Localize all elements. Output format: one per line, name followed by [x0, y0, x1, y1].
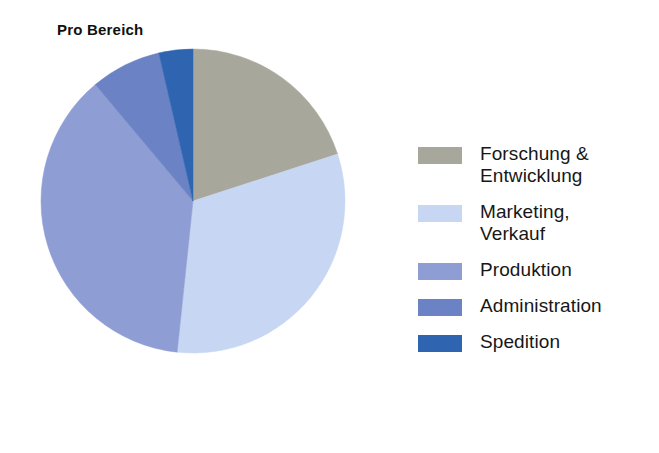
legend-color-swatch	[418, 299, 462, 316]
legend-color-swatch	[418, 335, 462, 352]
legend-color-swatch	[418, 205, 462, 222]
legend-item-label: Spedition	[480, 331, 560, 353]
legend-item-forschung-entwicklung: Forschung & Entwicklung	[418, 143, 648, 187]
pie-slice-group	[41, 49, 345, 353]
chart-legend: Forschung & EntwicklungMarketing, Verkau…	[418, 143, 648, 367]
legend-item-label: Produktion	[480, 259, 572, 281]
legend-item-label: Administration	[480, 295, 602, 317]
legend-item-spedition: Spedition	[418, 331, 648, 353]
legend-item-marketing-verkauf: Marketing, Verkauf	[418, 201, 648, 245]
pie-chart-figure: Pro Bereich Forschung & EntwicklungMarke…	[0, 0, 659, 453]
pie-svg	[38, 44, 348, 358]
legend-item-administration: Administration	[418, 295, 648, 317]
legend-item-label: Forschung & Entwicklung	[480, 143, 589, 187]
legend-color-swatch	[418, 263, 462, 280]
legend-item-label: Marketing, Verkauf	[480, 201, 570, 245]
legend-item-produktion: Produktion	[418, 259, 648, 281]
pie-chart-plot-area	[38, 44, 348, 358]
chart-title: Pro Bereich	[57, 21, 143, 38]
legend-color-swatch	[418, 147, 462, 164]
